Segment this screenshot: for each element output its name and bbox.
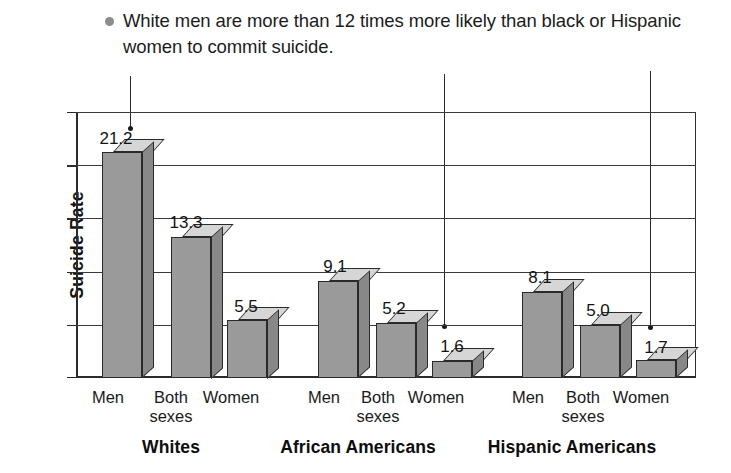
group-label-whites: Whites <box>131 437 211 458</box>
bar-hispanic-americans-women[interactable] <box>636 360 688 378</box>
bar-value-african-americans-women: 1.6 <box>424 337 480 357</box>
x-label-line2: sexes <box>338 407 418 426</box>
tick-mark-20 <box>67 165 76 166</box>
bar-front-face <box>580 325 620 378</box>
gridline-20 <box>76 165 696 166</box>
bar-side-face <box>142 142 154 378</box>
group-label-african-americans: African Americans <box>278 437 438 458</box>
group-label-hispanic-americans: Hispanic Americans <box>482 437 662 458</box>
bar-african-americans-men[interactable] <box>318 281 370 378</box>
x-label-whites-women: Women <box>191 388 271 407</box>
bar-side-face <box>358 270 370 378</box>
bar-front-face <box>102 152 142 378</box>
bar-hispanic-americans-men[interactable] <box>522 292 574 378</box>
bar-front-face <box>636 360 676 378</box>
bar-african-americans-both-sexes[interactable] <box>376 323 428 378</box>
bar-value-hispanic-americans-both-sexes: 5.0 <box>570 301 626 321</box>
tick-mark-25 <box>67 112 76 113</box>
bar-african-americans-women[interactable] <box>432 361 484 378</box>
plot-border-right <box>695 112 696 378</box>
x-label-hispanic-americans-women: Women <box>601 388 681 407</box>
x-label-line2: sexes <box>543 407 623 426</box>
x-label-african-americans-women: Women <box>396 388 476 407</box>
bar-front-face <box>522 292 562 378</box>
bar-front-face <box>227 320 267 379</box>
gridline-25 <box>76 112 696 113</box>
bar-whites-women[interactable] <box>227 320 279 379</box>
tick-mark-15 <box>67 218 76 219</box>
x-label-line2: sexes <box>131 407 211 426</box>
tick-mark-0 <box>67 377 76 378</box>
bar-value-whites-women: 5.5 <box>218 297 274 317</box>
bar-value-whites-both-sexes: 13.3 <box>158 213 214 233</box>
bar-value-hispanic-americans-women: 1.7 <box>628 338 684 358</box>
bar-side-face <box>267 309 279 378</box>
bar-value-hispanic-americans-men: 8.1 <box>512 268 568 288</box>
bar-front-face <box>376 323 416 378</box>
bar-hispanic-americans-both-sexes[interactable] <box>580 325 632 378</box>
gridline-10 <box>76 272 696 273</box>
bar-whites-men[interactable] <box>102 152 154 378</box>
tick-mark-10 <box>67 272 76 273</box>
bar-value-african-americans-both-sexes: 5.2 <box>366 299 422 319</box>
bar-front-face <box>171 237 211 379</box>
bar-front-face <box>318 281 358 378</box>
plot-area: Suicide Rate 25 20 15 10 5 0 21.2 <box>76 112 696 378</box>
bar-value-whites-men: 21.2 <box>88 129 144 149</box>
bar-value-african-americans-men: 9.1 <box>307 257 363 277</box>
y-axis-title: Suicide Rate <box>67 191 88 298</box>
bar-whites-both-sexes[interactable] <box>171 237 223 379</box>
bar-front-face <box>432 361 472 378</box>
y-axis-line <box>76 112 78 378</box>
tick-mark-5 <box>67 325 76 326</box>
bar-side-face <box>562 281 574 378</box>
suicide-rate-bar-chart: Suicide Rate 25 20 15 10 5 0 21.2 <box>0 0 731 473</box>
